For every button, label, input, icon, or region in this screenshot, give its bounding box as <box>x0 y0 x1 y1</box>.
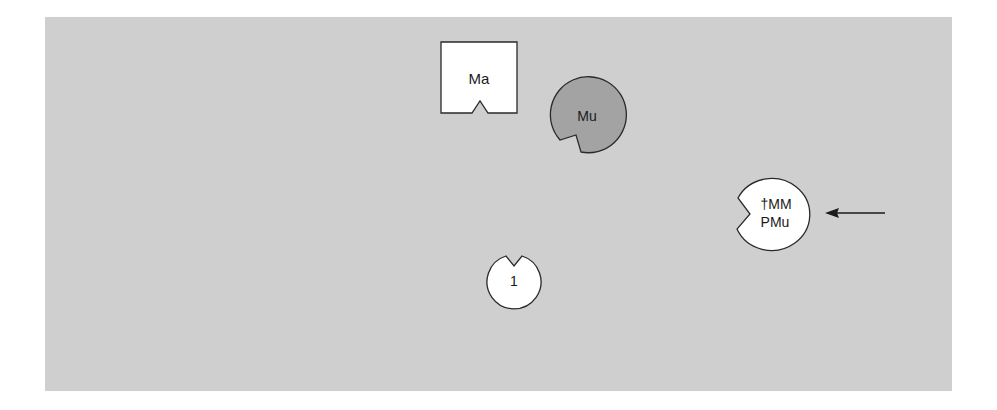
node-label-pmu-line1: †MM <box>760 196 791 212</box>
node-ma: Ma <box>441 42 517 113</box>
node-label-ma: Ma <box>469 70 490 87</box>
node-mu: Mu <box>550 77 626 153</box>
node-label-mu: Mu <box>577 108 596 124</box>
node-label-one: 1 <box>510 273 518 289</box>
node-one: 1 <box>487 256 541 309</box>
node-pmu: †MM PMu <box>737 178 810 250</box>
diagram-canvas: Ma Mu †MM PMu 1 <box>0 0 997 410</box>
arrow-left-icon <box>825 208 885 218</box>
node-label-pmu-line2: PMu <box>761 214 790 230</box>
